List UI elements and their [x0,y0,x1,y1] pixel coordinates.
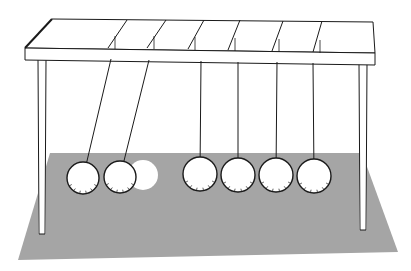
ball-2-swung [104,161,136,193]
ball-circle [297,159,331,193]
ball-3-string [200,61,201,157]
right-leg [359,64,367,230]
ball-1-swung-string [87,59,111,162]
ball-circle [259,158,293,192]
frame-top-bar [25,19,375,65]
ball-6 [297,159,331,193]
ball-circle [221,158,255,192]
ball-4 [221,158,255,192]
ball-circle [67,162,99,194]
bar-top-surface [25,19,375,53]
ball-6-string [313,63,314,159]
ball-circle [183,157,217,191]
ball-1-swung [67,162,99,194]
ball-2-swung-string [124,60,149,161]
left-leg [38,60,46,234]
ball-strings [87,59,314,162]
scene-canvas [0,0,411,271]
ball-3 [183,157,217,191]
ball-circle [104,161,136,193]
ball-5-string [276,62,277,158]
ball-5 [259,158,293,192]
